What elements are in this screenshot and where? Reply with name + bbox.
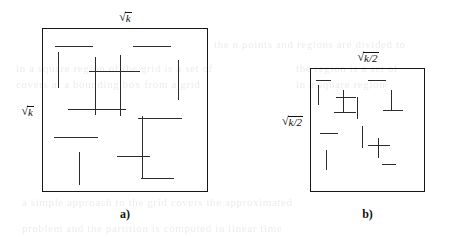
panel-a-side-label: √k (21, 105, 34, 117)
panel-a-segment (120, 55, 121, 116)
panel-b-top-label: √k/2 (356, 51, 378, 63)
panel-a-side-radicand: k (28, 106, 33, 118)
panel-b-segment (357, 97, 358, 119)
panel-a-segment (141, 178, 174, 179)
figure-page: the n points and regions are divided toi… (0, 0, 449, 237)
panel-b-caption: b) (362, 207, 373, 222)
panel-a-segment (95, 57, 96, 115)
panel-b-side-label: √k/2 (281, 115, 303, 127)
panel-a-segment (117, 156, 150, 157)
panel-a-segment (133, 46, 171, 47)
panel-b-segment (382, 164, 396, 165)
panel-b-square (310, 68, 425, 192)
panel-a-segment (178, 60, 179, 100)
panel-a-top-label: √k (118, 11, 131, 23)
panel-b-segment (343, 90, 344, 112)
panel-a-segment (79, 152, 80, 185)
panel-b-segment (378, 138, 379, 158)
ghost-text-line: the n points and regions are divided to (214, 38, 406, 50)
panel-a-segment (68, 109, 126, 110)
panel-b-segment (391, 90, 392, 110)
panel-a-segment (142, 116, 143, 178)
panel-b-segment (316, 80, 331, 81)
ghost-text-line: a simple approach to the grid covers the… (22, 196, 293, 208)
panel-b-segment (368, 80, 386, 81)
panel-b-segment (326, 150, 327, 170)
panel-a-segment (54, 137, 98, 138)
panel-a-segment (138, 118, 182, 119)
panel-a-top-radicand: k (126, 12, 131, 24)
panel-a-segment (89, 71, 140, 72)
panel-b-segment (362, 126, 363, 148)
panel-b-top-radicand: k/2 (364, 52, 377, 64)
panel-b-segment (334, 112, 356, 113)
panel-a-caption: a) (120, 207, 130, 222)
panel-b-segment (320, 133, 338, 134)
panel-b-side-radicand: k/2 (289, 116, 302, 128)
ghost-text-line: problem and the partition is computed in… (22, 222, 282, 234)
panel-b-segment (336, 97, 356, 98)
panel-a-segment (58, 52, 59, 88)
panel-a-segment (55, 46, 93, 47)
panel-b-segment (383, 110, 403, 111)
panel-b-segment (318, 85, 319, 105)
